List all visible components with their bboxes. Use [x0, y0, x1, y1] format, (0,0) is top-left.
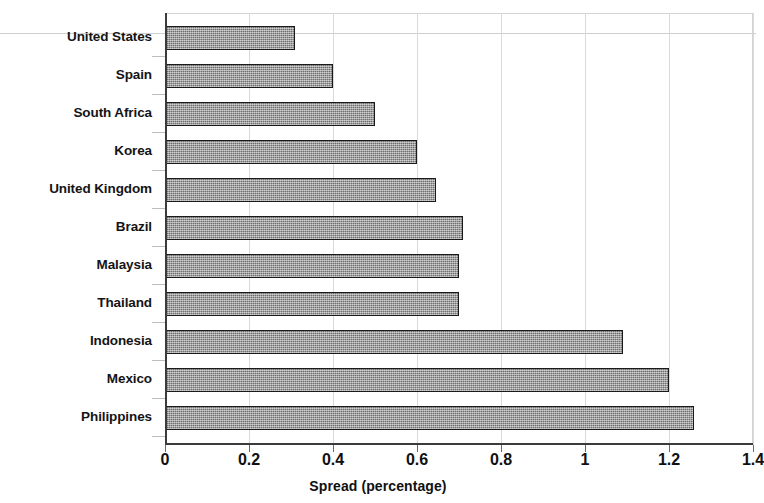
gridline	[753, 13, 754, 445]
plot-area	[165, 13, 753, 445]
plot-border-top	[165, 13, 753, 14]
bar	[165, 330, 623, 354]
y-axis-label: Mexico	[0, 371, 152, 386]
y-axis-tick	[152, 436, 165, 437]
y-axis-label: Indonesia	[0, 333, 152, 348]
x-axis-tick-label: 0.2	[238, 451, 260, 469]
y-axis-tick	[152, 398, 165, 399]
bar-row	[165, 323, 753, 361]
y-axis-label: Philippines	[0, 409, 152, 424]
bar	[165, 368, 669, 392]
x-axis-tick-label: 1.2	[658, 451, 680, 469]
y-axis-tick	[152, 94, 165, 95]
bar-row	[165, 247, 753, 285]
bar	[165, 26, 295, 50]
y-axis-label: Brazil	[0, 219, 152, 234]
bar-row	[165, 209, 753, 247]
x-axis-tick-label: 1.4	[742, 451, 764, 469]
y-axis-line	[165, 13, 167, 445]
bar-row	[165, 399, 753, 437]
bar-row	[165, 285, 753, 323]
x-axis-tick-label: 0	[161, 451, 170, 469]
y-axis-tick	[152, 322, 165, 323]
y-axis-label: Thailand	[0, 295, 152, 310]
bar	[165, 254, 459, 278]
y-axis-tick	[152, 284, 165, 285]
y-axis-label: South Africa	[0, 105, 152, 120]
bar-row	[165, 19, 753, 57]
bar	[165, 102, 375, 126]
bar	[165, 64, 333, 88]
y-axis-label: Korea	[0, 143, 152, 158]
chart-title-remnant	[0, 0, 756, 7]
bar-row	[165, 57, 753, 95]
bar	[165, 216, 463, 240]
y-axis-label: United Kingdom	[0, 181, 152, 196]
x-axis-title: Spread (percentage)	[0, 478, 756, 494]
y-axis-tick	[152, 56, 165, 57]
bar	[165, 140, 417, 164]
x-axis-tick-label: 1	[581, 451, 590, 469]
y-axis-label: United States	[0, 29, 152, 44]
bar-row	[165, 95, 753, 133]
x-axis-tick-label: 0.8	[490, 451, 512, 469]
bar	[165, 178, 436, 202]
y-axis-tick	[152, 246, 165, 247]
bar	[165, 292, 459, 316]
y-axis-tick	[152, 360, 165, 361]
y-axis-label: Spain	[0, 67, 152, 82]
bar	[165, 406, 694, 430]
x-axis-tick-label: 0.6	[406, 451, 428, 469]
y-axis-label: Malaysia	[0, 257, 152, 272]
bar-row	[165, 133, 753, 171]
x-axis-line	[165, 443, 753, 445]
bar-row	[165, 361, 753, 399]
x-axis-tick-label: 0.4	[322, 451, 344, 469]
y-axis-tick	[152, 132, 165, 133]
bar-row	[165, 171, 753, 209]
y-axis-tick	[152, 208, 165, 209]
y-axis-tick	[152, 170, 165, 171]
